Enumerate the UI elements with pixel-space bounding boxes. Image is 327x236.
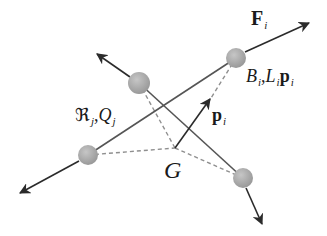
label-force-sub: i (264, 19, 267, 31)
label-r-sub: j (91, 115, 94, 127)
label-q: Q (99, 105, 112, 125)
label-l: L (266, 66, 276, 86)
arrow-force-lower-left (20, 161, 79, 193)
label-center-g: G (164, 158, 181, 182)
force-arrows (20, 23, 309, 224)
dashed-link-lower-left (88, 148, 175, 155)
node-upper-left (128, 72, 150, 94)
label-l-sub: i (277, 76, 280, 88)
node-lower-left (78, 145, 98, 165)
label-b-sub: i (258, 76, 261, 88)
arrow-force-bottom-right (246, 188, 262, 224)
label-p-sub: i (291, 76, 294, 88)
label-r: ℜ (75, 105, 90, 125)
label-node-props: Bi,Lipi (246, 67, 294, 85)
label-p: p (280, 66, 290, 86)
node-bottom-right (233, 168, 253, 188)
dashed-link-upper-left (139, 83, 175, 148)
label-b: B (246, 66, 257, 86)
bar-upperleft-bottomright (139, 83, 243, 178)
label-pvec-sub: i (223, 115, 226, 127)
label-force: Fi (251, 8, 267, 28)
label-bar-props: ℜj,Qj (75, 106, 116, 124)
label-position-vector: pi (212, 106, 226, 124)
node-top-right (226, 48, 246, 68)
arrow-position-vector-p (175, 99, 210, 148)
arrow-force-upper-left (97, 54, 130, 77)
label-q-sub: j (113, 115, 116, 127)
dashed-link-bottom-right (175, 148, 243, 178)
label-force-main: F (251, 7, 263, 29)
label-pvec-main: p (212, 105, 222, 125)
tensegrity-diagram (0, 0, 327, 236)
